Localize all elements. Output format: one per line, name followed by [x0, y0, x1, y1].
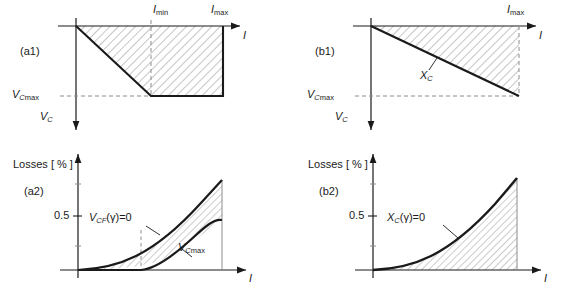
panel-tag-a2: (a2)	[24, 186, 44, 197]
x-axis-arrow-a2	[237, 267, 246, 274]
panel-a2: Losses [ % ] 0.5 (a2) VCF(γ)=0 VCmax I	[0, 146, 283, 292]
figure-root: Imin Imax I VCmax VC (a1)	[0, 0, 566, 292]
x-axis-label-b2: I	[544, 273, 547, 284]
curve-label-xc-b2: XC(γ)=0	[387, 212, 425, 225]
y-tick-label-half-b2: 0.5	[349, 210, 364, 221]
y-axis-arrow-b2	[370, 154, 377, 163]
x-axis-arrow-b1	[527, 23, 536, 30]
curve-label-vcf-a2: VCF(γ)=0	[89, 212, 132, 225]
panel-tag-a1: (a1)	[20, 46, 40, 57]
xc-leader-b1	[429, 58, 437, 70]
y-axis-label-a2: Losses [ % ]	[13, 159, 73, 170]
panel-a1-plot	[0, 0, 283, 146]
leader-xc-b2	[443, 225, 458, 238]
panel-tag-b1: (b1)	[315, 46, 335, 57]
curve-label-vcmax-a2: VCmax	[178, 242, 205, 255]
y-axis-arrow-a1	[73, 121, 80, 130]
panel-tag-b2: (b2)	[319, 186, 339, 197]
y-tick-label-half-a2: 0.5	[54, 210, 69, 221]
y-axis-label-a1: VC	[40, 111, 53, 124]
x-tick-label-imin-a1: Imin	[153, 4, 168, 17]
x-axis-label-a1: I	[243, 30, 246, 41]
panel-b2: Losses [ % ] 0.5 (b2) XC(γ)=0 I	[283, 146, 566, 292]
x-tick-label-imax-a1: Imax	[211, 4, 228, 17]
panel-a1: Imin Imax I VCmax VC (a1)	[0, 0, 283, 146]
y-tick-label-vcmax-b1: VCmax	[307, 89, 334, 102]
x-axis-arrow-a1	[231, 23, 240, 30]
y-axis-arrow-a2	[75, 154, 82, 163]
panel-b1: Imax I VCmax VC XC (b1)	[283, 0, 566, 146]
curve-label-xc-b1: XC	[420, 70, 433, 83]
y-tick-label-vcmax-a1: VCmax	[12, 89, 39, 102]
y-axis-arrow-b1	[368, 121, 375, 130]
x-axis-label-a2: I	[249, 273, 252, 284]
y-axis-label-b2: Losses [ % ]	[308, 159, 368, 170]
region-vc-envelope-a1	[76, 26, 223, 96]
x-tick-label-imax-b1: Imax	[507, 4, 524, 17]
x-axis-label-b1: I	[539, 30, 542, 41]
leader-vcf-a2	[146, 226, 160, 235]
x-axis-arrow-b2	[532, 267, 541, 274]
y-axis-label-b1: VC	[335, 111, 348, 124]
